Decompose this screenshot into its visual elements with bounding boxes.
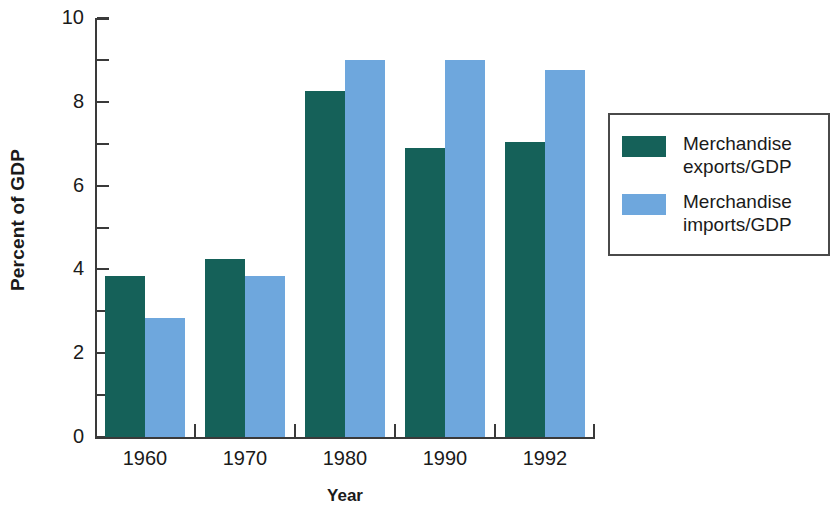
bar-exports-1970 bbox=[205, 259, 245, 437]
y-axis-tick-label: 2 bbox=[44, 342, 84, 362]
bar-imports-1960 bbox=[145, 318, 185, 437]
x-axis-title: Year bbox=[95, 486, 595, 506]
y-axis-tick-labels: 0246810 bbox=[38, 18, 84, 437]
y-axis-title: Percent of GDP bbox=[0, 0, 36, 440]
legend: Merchandise exports/GDP Merchandise impo… bbox=[608, 113, 830, 256]
bar-imports-1990 bbox=[445, 60, 485, 437]
x-axis-line bbox=[95, 437, 595, 439]
y-axis-tick-label: 6 bbox=[44, 175, 84, 195]
x-axis-tick-label: 1990 bbox=[395, 446, 495, 470]
bar-imports-1980 bbox=[345, 60, 385, 437]
bar-exports-1960 bbox=[105, 276, 145, 437]
y-axis-tick-label: 0 bbox=[44, 426, 84, 446]
x-axis-tick-label: 1970 bbox=[195, 446, 295, 470]
legend-entry-exports[interactable]: Merchandise exports/GDP bbox=[622, 132, 792, 178]
bar-imports-1970 bbox=[245, 276, 285, 437]
plot-area bbox=[95, 18, 595, 437]
bar-exports-1992 bbox=[505, 142, 545, 437]
x-axis-tick-labels: 19601970198019901992 bbox=[95, 446, 595, 476]
legend-swatch-exports-icon bbox=[622, 136, 666, 157]
y-axis-tick-label: 4 bbox=[44, 258, 84, 278]
x-axis-tick-label: 1980 bbox=[295, 446, 395, 470]
legend-entry-imports[interactable]: Merchandise imports/GDP bbox=[622, 190, 792, 236]
x-axis-tick-label: 1960 bbox=[95, 446, 195, 470]
x-axis-tick-label: 1992 bbox=[495, 446, 595, 470]
bar-imports-1992 bbox=[545, 70, 585, 437]
legend-label-exports: Merchandise exports/GDP bbox=[683, 132, 792, 178]
bar-exports-1980 bbox=[305, 91, 345, 437]
y-axis-title-label: Percent of GDP bbox=[7, 149, 29, 291]
y-axis-tick-label: 10 bbox=[44, 7, 84, 27]
y-axis-tick-label: 8 bbox=[44, 91, 84, 111]
bar-exports-1990 bbox=[405, 148, 445, 437]
legend-label-imports: Merchandise imports/GDP bbox=[683, 190, 792, 236]
legend-swatch-imports-icon bbox=[622, 194, 666, 215]
bars-layer bbox=[95, 18, 595, 437]
